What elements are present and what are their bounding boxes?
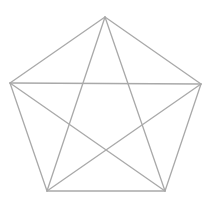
diagonal-edge-right-left [10,83,201,84]
diagonal-edge-bottom-right-left [10,83,165,191]
diagonal-edge-top-bottom-right [105,17,165,191]
side-edge-bottom-left-left [10,83,47,191]
diagonal-edge-right-bottom-left [47,84,201,191]
side-edge-top-left [10,17,105,83]
diagram-edges [10,17,201,191]
diagonal-edge-top-bottom-left [47,17,105,191]
side-edge-right-bottom-right [165,84,201,191]
side-edge-top-right [105,17,201,84]
pentagon-diagram [0,0,215,202]
